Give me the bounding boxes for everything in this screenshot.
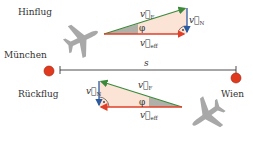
munich-dot bbox=[44, 66, 54, 76]
label-v-N-outbound: v⃗N bbox=[189, 15, 205, 26]
label-v-eff-return: v⃗eff bbox=[140, 110, 159, 121]
city-end-label: Wien bbox=[221, 89, 244, 99]
svg-text:φ: φ bbox=[139, 23, 145, 33]
svg-text:φ: φ bbox=[139, 97, 145, 107]
vienna-dot bbox=[231, 73, 241, 83]
label-v-eff-outbound: v⃗eff bbox=[140, 38, 159, 49]
outbound-label: Hinflug bbox=[18, 7, 52, 17]
distance-label: s bbox=[144, 58, 149, 68]
return-label: Rückflug bbox=[18, 89, 59, 99]
label-v-F-outbound: v⃗F bbox=[140, 9, 155, 20]
outbound-plane-icon bbox=[59, 16, 106, 63]
city-start-label: München bbox=[4, 50, 47, 60]
label-v-F-return: v⃗F bbox=[138, 80, 153, 91]
diagram-canvas: v⃗F v⃗N v⃗eff φ v⃗F v⃗N v⃗eff φ bbox=[0, 0, 253, 142]
